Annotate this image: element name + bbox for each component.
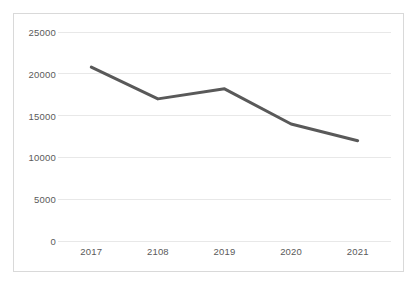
x-tick-label-2021: 2021	[347, 246, 369, 257]
x-tick-label-2019: 2019	[214, 246, 236, 257]
x-tick-label-2020: 2020	[280, 246, 302, 257]
plot-area: 0500010000150002000025000 20172108201920…	[14, 14, 405, 273]
x-tick-label-2017: 2017	[80, 246, 102, 257]
x-axis-tick-labels: 20172108201920202021	[14, 14, 405, 273]
chart-frame: 0500010000150002000025000 20172108201920…	[13, 13, 404, 272]
x-tick-label-2108: 2108	[147, 246, 169, 257]
